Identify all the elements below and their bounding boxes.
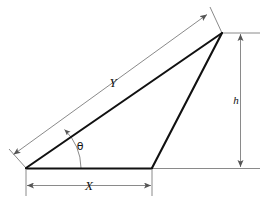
label-base-x: X <box>84 178 94 193</box>
label-height-h: h <box>233 94 239 106</box>
triangle-side-hypotenuse <box>26 33 222 168</box>
triangle-diagram: Y X h θ <box>0 0 274 202</box>
diagram-canvas: Y X h θ <box>0 0 274 202</box>
label-hypotenuse-y: Y <box>109 75 118 90</box>
extension-line-apex-oblique <box>210 7 222 33</box>
triangle-outline <box>26 33 222 169</box>
triangle-side-right <box>152 33 222 168</box>
label-angle-theta: θ <box>77 140 84 153</box>
